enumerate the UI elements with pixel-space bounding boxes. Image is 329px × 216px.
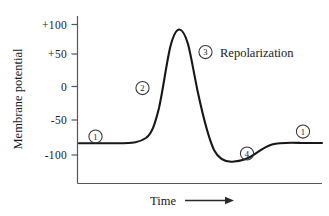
time-arrow-head-icon bbox=[225, 197, 234, 204]
marker-one-left-label: 1 bbox=[93, 132, 97, 142]
plot-area: Membrane potential +100 +50 0 -50 -100 1… bbox=[0, 0, 329, 216]
marker-one-left: 1 bbox=[89, 130, 102, 143]
y-tick-label-minus100: -100 bbox=[45, 149, 67, 161]
marker-three-label: 3 bbox=[203, 47, 207, 57]
x-axis-title: Time bbox=[150, 194, 176, 208]
y-axis-title: Membrane potential bbox=[11, 48, 25, 150]
y-tick-label-plus50: +50 bbox=[48, 48, 67, 60]
y-tick-label-plus100: +100 bbox=[42, 19, 67, 31]
y-tick-label-minus50: -50 bbox=[51, 114, 67, 126]
repolarization-label: Repolarization bbox=[220, 46, 294, 60]
y-tick-label-zero: 0 bbox=[61, 81, 67, 93]
marker-one-right: 1 bbox=[296, 125, 309, 138]
marker-four-label: 4 bbox=[245, 149, 250, 159]
marker-two: 2 bbox=[136, 81, 149, 94]
action-potential-figure: Membrane potential +100 +50 0 -50 -100 1… bbox=[0, 0, 329, 216]
marker-one-right-label: 1 bbox=[301, 127, 305, 137]
marker-four: 4 bbox=[240, 147, 253, 160]
marker-three: 3 bbox=[199, 45, 212, 58]
marker-two-label: 2 bbox=[140, 83, 144, 93]
